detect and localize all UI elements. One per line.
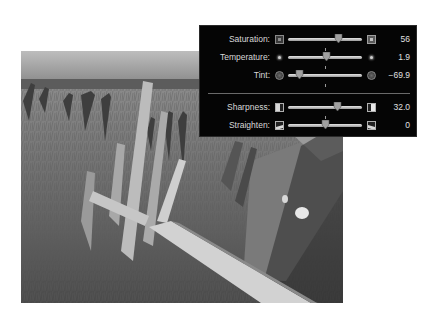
tint-row: Tint: −69.9 — [200, 68, 416, 84]
sharpness-slider-thumb[interactable] — [333, 102, 342, 112]
tint-slider-thumb[interactable] — [295, 70, 304, 80]
saturation-slider[interactable] — [288, 38, 362, 41]
saturation-slider-thumb[interactable] — [334, 34, 343, 44]
tint-slider[interactable] — [288, 74, 362, 77]
sharpness-high-icon[interactable] — [367, 103, 376, 112]
sharpness-value: 32.0 — [393, 102, 410, 112]
sharpness-row: Sharpness: 32.0 — [200, 100, 416, 116]
straighten-value: 0 — [405, 120, 410, 130]
saturation-label: Saturation: — [229, 34, 270, 44]
saturation-low-icon[interactable] — [275, 35, 284, 44]
tint-magenta-icon[interactable] — [367, 71, 376, 80]
straighten-row: Straighten: 0 — [200, 118, 416, 134]
temperature-slider[interactable] — [288, 56, 362, 59]
straighten-label: Straighten: — [229, 120, 270, 130]
sharpness-label: Sharpness: — [227, 102, 270, 112]
sharpness-slider[interactable] — [288, 106, 362, 109]
tint-green-icon[interactable] — [275, 71, 284, 80]
straighten-slider[interactable] — [288, 124, 362, 127]
adjust-panel: Saturation: 56 Temperature: 1.9 Tint: — [199, 25, 417, 137]
saturation-row: Saturation: 56 — [200, 32, 416, 48]
temperature-label: Temperature: — [220, 52, 270, 62]
straighten-slider-thumb[interactable] — [321, 120, 330, 130]
saturation-high-icon[interactable] — [367, 35, 376, 44]
tint-label: Tint: — [254, 70, 270, 80]
temperature-warm-icon[interactable] — [367, 53, 376, 62]
slider-center-tick — [325, 84, 326, 87]
temperature-slider-thumb[interactable] — [322, 52, 331, 62]
sharpness-low-icon[interactable] — [275, 103, 284, 112]
section-divider — [208, 93, 410, 94]
straighten-right-icon[interactable] — [367, 121, 376, 130]
straighten-left-icon[interactable] — [275, 121, 284, 130]
saturation-value: 56 — [401, 34, 410, 44]
temperature-value: 1.9 — [398, 52, 410, 62]
temperature-cool-icon[interactable] — [275, 53, 284, 62]
temperature-row: Temperature: 1.9 — [200, 50, 416, 66]
tint-value: −69.9 — [388, 70, 410, 80]
